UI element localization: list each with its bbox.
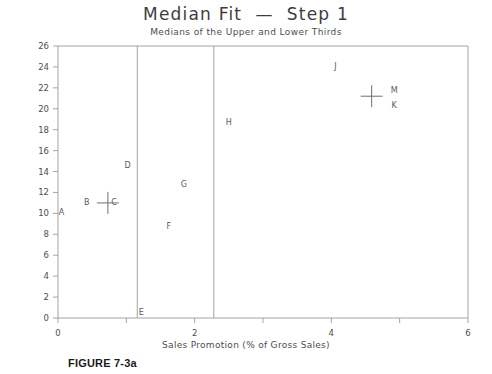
- data-point-M: M: [391, 86, 398, 95]
- scatter-plot: 024681012141618202224260246ABCDEFGHJKM: [0, 0, 492, 374]
- y-tick-label: 16: [38, 146, 49, 156]
- y-tick-label: 4: [44, 271, 49, 281]
- figure-caption: FIGURE 7-3a: [68, 357, 137, 369]
- y-tick-label: 12: [38, 187, 49, 197]
- y-tick-label: 6: [44, 250, 49, 260]
- y-tick-label: 10: [38, 208, 49, 218]
- data-point-K: K: [392, 101, 398, 110]
- data-point-F: F: [166, 222, 171, 231]
- x-tick-label: 2: [192, 328, 197, 338]
- data-point-G: G: [181, 180, 187, 189]
- y-tick-label: 20: [38, 104, 49, 114]
- data-point-E: E: [139, 308, 144, 317]
- upper-third-median-marker: [361, 85, 383, 107]
- data-point-J: J: [333, 62, 336, 71]
- x-tick-label: 6: [465, 328, 470, 338]
- y-tick-label: 2: [44, 292, 49, 302]
- y-tick-label: 26: [38, 41, 49, 51]
- lower-third-median-marker: [97, 192, 119, 214]
- y-tick-label: 8: [44, 229, 49, 239]
- x-tick-label: 4: [329, 328, 334, 338]
- y-tick-label: 14: [38, 167, 49, 177]
- x-axis-label: Sales Promotion (% of Gross Sales): [0, 340, 492, 350]
- data-point-D: D: [125, 161, 131, 170]
- data-point-B: B: [84, 198, 90, 207]
- data-point-C: C: [111, 198, 117, 207]
- y-tick-label: 22: [38, 83, 49, 93]
- x-tick-label: 0: [55, 328, 60, 338]
- y-tick-label: 24: [38, 62, 49, 72]
- data-point-H: H: [226, 118, 232, 127]
- y-tick-label: 0: [44, 313, 49, 323]
- y-tick-label: 18: [38, 125, 49, 135]
- data-point-A: A: [59, 208, 65, 217]
- figure-container: Median Fit — Step 1 Medians of the Upper…: [0, 0, 492, 374]
